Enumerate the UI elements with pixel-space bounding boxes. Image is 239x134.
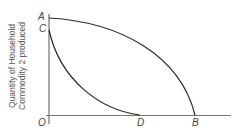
point-label-d: D (137, 117, 144, 128)
point-label-b: B (192, 117, 199, 128)
diagram-canvas (0, 0, 239, 134)
point-label-o: O (38, 117, 46, 128)
curve-cd (49, 30, 140, 115)
point-label-c: C (39, 23, 46, 34)
point-label-a: A (38, 11, 45, 22)
curve-ab (49, 18, 195, 115)
